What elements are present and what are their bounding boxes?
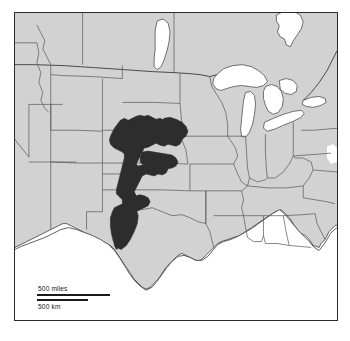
scale-bar-km-label: 500 km <box>38 304 61 311</box>
scale-bar-miles-line <box>37 294 110 296</box>
map-frame <box>14 12 338 321</box>
map-canvas[interactable] <box>15 13 337 320</box>
scale-bar-miles-label: 500 miles <box>38 286 68 293</box>
scale-bar-km-line <box>37 299 88 301</box>
map-figure: 500 miles 500 km <box>0 0 350 341</box>
